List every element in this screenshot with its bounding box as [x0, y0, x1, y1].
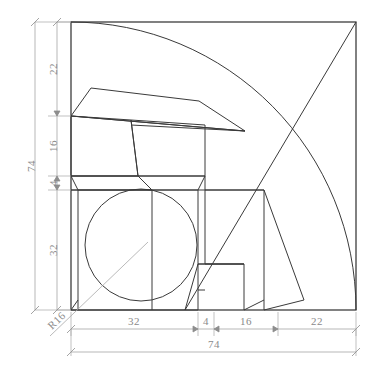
polygon-thin-band-trapezoid [71, 176, 152, 190]
dim-label-vertical-4: 4 [47, 180, 59, 186]
dim-label-radius-r16: R16 [45, 309, 68, 331]
geometry-group [71, 22, 356, 310]
vertical-dimension-group: 74 22 16 4 32 [25, 18, 71, 314]
arrow-h-chain-4 [214, 326, 219, 332]
slant-edge-left-of-step [185, 264, 198, 310]
dim-label-vertical-32: 32 [47, 244, 59, 256]
horizontal-dimension-group: 32 4 16 22 74 [67, 312, 360, 356]
dim-label-horizontal-32: 32 [128, 315, 140, 327]
technical-drawing-canvas: 74 22 16 4 32 [0, 0, 375, 378]
band-line-22 [71, 116, 245, 131]
dim-label-vertical-overall: 74 [25, 160, 37, 172]
polygon-right-tapered [264, 190, 304, 310]
outer-square-outline [71, 22, 356, 310]
arrow-chain-22 [54, 111, 60, 116]
dim-label-vertical-22: 22 [47, 63, 59, 75]
inscribed-circle-r16 [85, 189, 197, 301]
dim-label-horizontal-overall: 74 [208, 338, 220, 350]
dim-label-horizontal-16: 16 [240, 315, 252, 327]
cad-svg-canvas: 74 22 16 4 32 [0, 0, 375, 378]
polygon-upper-slanted [71, 88, 245, 131]
block-right-outline [205, 190, 264, 310]
short-edge-connector [198, 176, 205, 190]
arrow-h-chain-16 [273, 326, 278, 332]
polygon-middle-left [71, 116, 138, 176]
arrow-h-chain-32 [193, 326, 198, 332]
block-lower-step [198, 264, 244, 310]
dim-label-horizontal-4: 4 [203, 315, 209, 327]
diagonal-line-top-right [185, 22, 356, 310]
corner-chamfer-lower-left [71, 300, 78, 310]
corner-chamfer-lower-right [244, 300, 264, 310]
dim-label-horizontal-22: 22 [311, 315, 323, 327]
dim-label-vertical-16: 16 [47, 140, 59, 152]
quarter-arc-main [71, 22, 356, 310]
square-around-circle [71, 190, 198, 310]
